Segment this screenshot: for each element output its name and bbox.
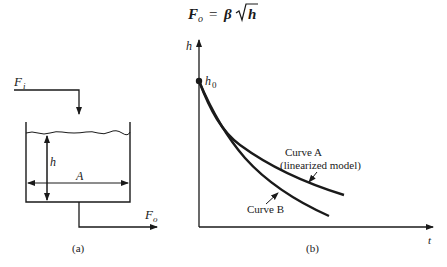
equation-lhs-subscript: o — [198, 13, 203, 24]
curve-a-pointer — [309, 172, 317, 182]
initial-level-subscript: 0 — [212, 80, 217, 90]
diagram-canvas: F o = β h F i h A F o (a) h t h — [0, 0, 447, 267]
inflow-label: F — [13, 74, 23, 89]
curve-a-label: Curve A — [285, 146, 322, 158]
level-response-plot: h t h 0 Curve A (linearized model) Curve… — [186, 39, 433, 255]
caption-b: (b) — [306, 242, 319, 255]
equation-radicand: h — [248, 6, 256, 22]
equation-lhs: F — [187, 6, 198, 22]
inflow-pipe-arrow — [14, 90, 79, 114]
curve-b-label: Curve B — [247, 203, 284, 215]
x-axis-label: t — [428, 234, 432, 246]
y-axis-label: h — [186, 39, 192, 53]
curve-a-sublabel: (linearized model) — [280, 159, 361, 172]
caption-a: (a) — [72, 242, 85, 255]
height-label: h — [50, 155, 56, 169]
equation-beta: β — [223, 6, 232, 22]
equation-equals: = — [209, 6, 217, 22]
equation: F o = β h — [187, 4, 258, 24]
outflow-subscript: o — [153, 214, 158, 224]
curve-a — [199, 81, 344, 195]
initial-level-label: h — [205, 74, 211, 88]
area-label: A — [75, 169, 84, 183]
tank-diagram: F i h A F o (a) — [13, 74, 158, 255]
liquid-surface — [26, 131, 130, 135]
